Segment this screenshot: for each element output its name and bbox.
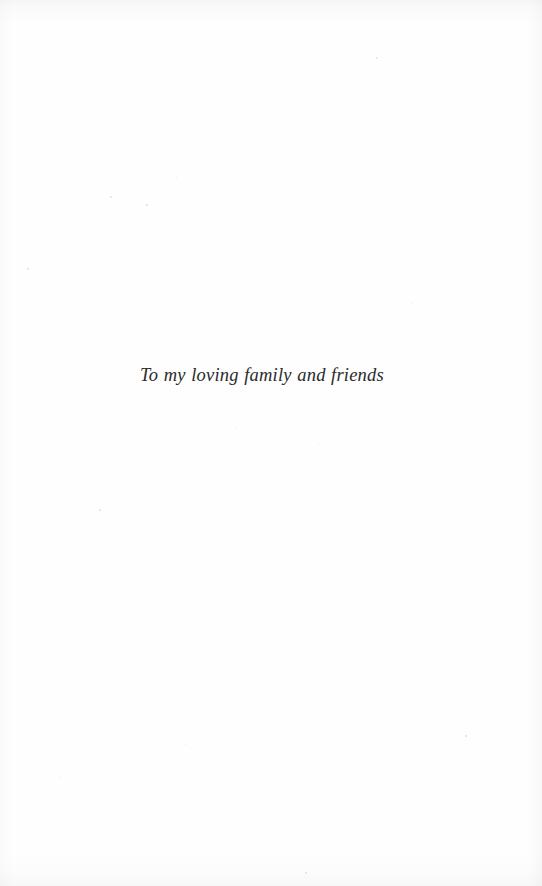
scan-speck <box>376 57 378 59</box>
dedication-page: To my loving family and friends <box>0 0 542 886</box>
scan-speck <box>27 268 29 270</box>
scan-speck <box>185 744 186 745</box>
scan-shadow-left <box>0 0 12 886</box>
scan-speck <box>318 444 319 445</box>
scan-speck <box>305 872 307 874</box>
scan-speck <box>236 427 237 428</box>
scan-speck <box>465 735 467 737</box>
dedication-text: To my loving family and friends <box>140 362 384 388</box>
scan-speck <box>110 196 112 198</box>
scan-speck <box>99 509 101 511</box>
scan-shadow-right <box>526 0 542 886</box>
scan-shadow-top <box>0 0 542 26</box>
scan-speck <box>176 177 177 178</box>
dedication-block: To my loving family and friends <box>0 362 542 388</box>
scan-speck <box>60 777 61 778</box>
scan-speck <box>497 397 498 398</box>
scan-speck <box>146 204 148 206</box>
scan-speck <box>411 303 412 304</box>
scan-shadow-bottom <box>0 856 542 886</box>
